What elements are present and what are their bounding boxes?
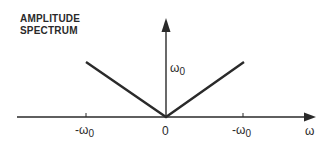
y-axis-arrowhead-icon <box>162 18 171 32</box>
tick-symbol: -ω <box>232 123 245 137</box>
title-line-1: AMPLITUDE <box>20 13 80 25</box>
tick-label-origin: 0 <box>162 124 169 138</box>
x-axis-arrowhead-icon <box>304 113 316 122</box>
tick-symbol: -ω <box>75 123 88 137</box>
tick-label-neg-omega0: -ω0 <box>75 123 94 139</box>
tick-subscript: 0 <box>88 128 94 139</box>
y-value-label: ω0 <box>170 61 185 77</box>
tick-label-pos-omega0: -ω0 <box>232 123 251 139</box>
subscript: 0 <box>179 66 185 77</box>
title-line-2: SPECTRUM <box>20 25 80 37</box>
amplitude-spectrum-figure: AMPLITUDE SPECTRUM ω0 -ω0 0 -ω0 ω <box>0 0 332 145</box>
tick-subscript: 0 <box>245 128 251 139</box>
x-axis-label: ω <box>305 124 314 138</box>
amplitude-curve <box>86 62 244 117</box>
chart-title: AMPLITUDE SPECTRUM <box>20 13 80 37</box>
omega-symbol: ω <box>170 61 179 75</box>
